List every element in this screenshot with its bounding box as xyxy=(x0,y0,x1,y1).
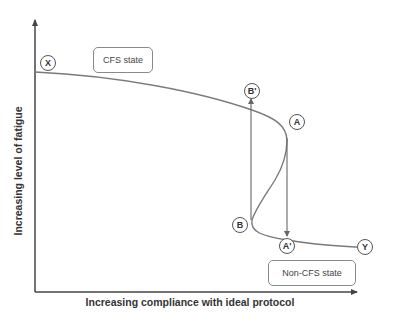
x-axis-label: Increasing compliance with ideal protoco… xyxy=(40,296,340,308)
point-x: X xyxy=(40,55,56,71)
y-axis-label: Increasing level of fatigue xyxy=(12,91,24,251)
fatigue-curve xyxy=(35,72,357,247)
point-b: B xyxy=(232,217,248,233)
point-a: A xyxy=(289,114,305,130)
point-y: Y xyxy=(357,239,373,255)
point-b-prime: B' xyxy=(244,83,260,99)
cfs-state-box: CFS state xyxy=(93,47,153,73)
point-a-prime: A' xyxy=(279,238,295,254)
non-cfs-state-box: Non-CFS state xyxy=(268,260,356,286)
